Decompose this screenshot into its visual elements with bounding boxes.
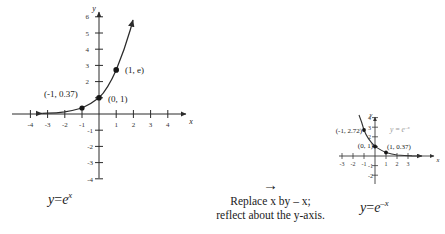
transform-instruction-line-1: Replace x by – x; — [188, 194, 353, 208]
left-y-tick-label: -1 — [87, 127, 93, 135]
left-x-tick-label: -3 — [45, 121, 51, 129]
right-x-tick-label: 2 — [396, 161, 399, 167]
right-y-tick-label: 3 — [368, 125, 371, 131]
right-y-tick-label: -2 — [368, 173, 373, 179]
right-graph-point-label: (0, 1) — [358, 142, 374, 150]
left-graph-panel: -4 -3 -2 -1 1 2 3 4 6 — [0, 0, 200, 182]
right-graph-equation-caption: y=e–x — [360, 200, 389, 216]
right-x-tick-label: 3 — [407, 161, 410, 167]
left-graph-y-axis-label: y — [91, 4, 96, 13]
left-graph-svg: -4 -3 -2 -1 1 2 3 4 6 — [0, 0, 200, 182]
right-graph-point — [384, 151, 388, 155]
left-graph-point — [96, 95, 102, 101]
left-y-tick-label: -2 — [87, 143, 93, 151]
right-graph-y-axis-label: y — [369, 112, 373, 118]
right-y-tick-label: -1 — [368, 163, 373, 169]
right-graph-svg: -3 -2 -1 1 2 3 4 3 2 -1 -2 — [330, 112, 445, 192]
left-y-tick-label: -3 — [87, 159, 93, 167]
left-graph-point-label: (1, e) — [125, 65, 144, 75]
left-x-tick-label: 2 — [132, 121, 136, 129]
left-x-tick-label: -1 — [79, 121, 85, 129]
left-graph-x-axis-label: x — [188, 117, 193, 126]
right-x-tick-label: -2 — [351, 161, 356, 167]
right-graph-x-axis-label: x — [436, 156, 440, 163]
right-x-tick-label: -3 — [340, 161, 345, 167]
right-graph-point-label: (-1, 2.72) — [336, 127, 363, 135]
left-eq-equals: = — [54, 192, 62, 207]
left-x-tick-label: -2 — [62, 121, 68, 129]
right-graph-point — [373, 144, 377, 148]
left-x-tick-label: 4 — [166, 121, 170, 129]
left-y-tick-label: 3 — [86, 62, 90, 70]
figure-root: -4 -3 -2 -1 1 2 3 4 6 — [0, 0, 445, 234]
right-graph-point-label: (1, 0.37) — [387, 143, 412, 151]
left-x-tick-label: -4 — [27, 121, 33, 129]
right-graph-panel: -3 -2 -1 1 2 3 4 3 2 -1 -2 — [330, 112, 445, 192]
right-graph-inline-curve-label: y=e–x — [389, 125, 410, 134]
left-graph-point — [79, 105, 84, 110]
left-x-tick-label: 3 — [149, 121, 153, 129]
left-y-tick-label: 6 — [86, 13, 90, 21]
left-graph-point-label: (0, 1) — [108, 94, 128, 104]
left-graph-axes — [12, 12, 186, 178]
right-x-tick-label: 1 — [385, 161, 388, 167]
right-inline-y: y — [389, 125, 394, 134]
left-y-tick-label: 5 — [86, 30, 90, 38]
right-eq-equals: = — [366, 200, 374, 215]
left-graph-point-label: (-1, 0.37) — [44, 89, 78, 99]
right-graph-point — [362, 128, 366, 132]
right-arrow-icon: → — [188, 178, 353, 193]
left-x-tick-label: 1 — [114, 121, 118, 129]
left-y-tick-label: -4 — [87, 176, 93, 182]
right-inline-exponent: –x — [404, 125, 411, 130]
left-graph-equation-caption: y=ex — [48, 192, 72, 208]
left-eq-exponent: x — [68, 190, 72, 200]
right-eq-exponent: –x — [380, 198, 388, 208]
right-x-tick-label: -1 — [362, 161, 367, 167]
left-y-tick-label: 4 — [86, 46, 90, 54]
right-inline-equals: = — [395, 125, 400, 134]
transform-instruction: → Replace x by – x; reflect about the y-… — [188, 178, 353, 222]
left-y-tick-label: 2 — [86, 78, 90, 86]
transform-instruction-line-2: reflect about the y-axis. — [188, 208, 353, 222]
left-graph-point — [113, 67, 119, 73]
